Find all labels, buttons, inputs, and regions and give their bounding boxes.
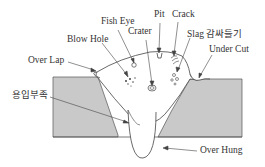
label-over-hung: Over Hung — [200, 146, 242, 156]
label-incomplete-fusion: 용입부족 — [12, 91, 48, 101]
label-crack: Crack — [172, 10, 195, 20]
over-hung — [128, 110, 156, 158]
label-blow-hole: Blow Hole — [67, 35, 108, 45]
label-slag: Slag 감싸들기 — [187, 30, 242, 40]
label-over-lap: Over Lap — [28, 56, 64, 66]
label-pit: Pit — [154, 10, 165, 20]
label-under-cut: Under Cut — [209, 45, 249, 55]
label-crater: Crater — [128, 27, 152, 37]
weld-defects-diagram: Fish Eye Pit Crack Blow Hole Crater Slag… — [0, 0, 265, 167]
